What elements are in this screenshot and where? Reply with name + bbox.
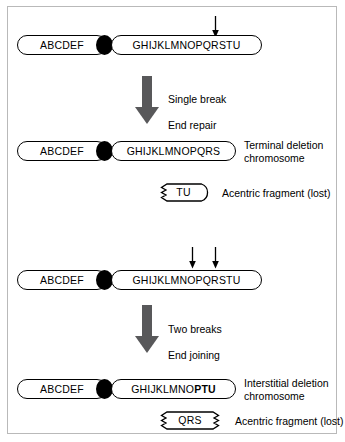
acentric-fragment-qrs-label: QRS (156, 411, 224, 430)
product-chromosome-interstitial: ABCDEF GHIJKLMNOPTU (17, 379, 236, 399)
process-arrow-two-breaks (134, 305, 160, 354)
process-label-line1: Two breaks (168, 323, 222, 336)
long-arm-label-bold: PTU (194, 383, 216, 395)
long-arm-label-composite: GHIJKLMNOPTU (131, 384, 216, 395)
long-arm: GHIJKLMNOPQRS (111, 141, 236, 161)
process-label-line2: End repair (168, 119, 226, 132)
short-arm-label: ABCDEF (40, 384, 84, 395)
process-label-line1: Single break (168, 93, 226, 106)
long-arm-label: GHIJKLMNOPQRSTU (132, 40, 240, 51)
short-arm: ABCDEF (17, 141, 107, 161)
product-chromosome-terminal: ABCDEF GHIJKLMNOPQRS (17, 141, 236, 161)
short-arm-label: ABCDEF (40, 275, 84, 286)
chromosome-deletion-figure: ABCDEF GHIJKLMNOPQRSTU Single break End … (0, 0, 345, 442)
acentric-fragment-tu-label: TU (156, 183, 211, 202)
long-arm-label: GHIJKLMNOPQRSTU (132, 275, 240, 286)
short-arm: ABCDEF (17, 270, 107, 290)
acentric-fragment-qrs: QRS (156, 411, 224, 430)
process-label-two-breaks: Two breaks End joining (168, 310, 222, 375)
short-arm-label: ABCDEF (40, 146, 84, 157)
short-arm: ABCDEF (17, 379, 107, 399)
process-label-line2: End joining (168, 349, 222, 362)
interstitial-deletion-side-label: Interstitial deletion chromosome (244, 377, 329, 403)
parent-chromosome-terminal: ABCDEF GHIJKLMNOPQRSTU (17, 35, 262, 55)
process-arrow-single-break (134, 76, 160, 125)
short-arm-label: ABCDEF (40, 40, 84, 51)
break-arrow-interstitial-right (210, 247, 221, 269)
long-arm-label: GHIJKLMNOPQRS (127, 146, 221, 157)
break-arrow-interstitial-left (187, 247, 198, 269)
long-arm: GHIJKLMNOPTU (111, 379, 236, 399)
long-arm-label-normal: GHIJKLMNO (131, 383, 194, 395)
acentric-fragment-tu: TU (156, 183, 211, 202)
terminal-deletion-side-label: Terminal deletion chromosome (244, 139, 323, 165)
parent-chromosome-interstitial: ABCDEF GHIJKLMNOPQRSTU (17, 270, 262, 290)
process-label-single-break: Single break End repair (168, 80, 226, 145)
long-arm: GHIJKLMNOPQRSTU (111, 270, 262, 290)
acentric-fragment-tu-caption: Acentric fragment (lost) (222, 187, 331, 200)
acentric-fragment-qrs-caption: Acentric fragment (lost) (235, 415, 344, 428)
long-arm: GHIJKLMNOPQRSTU (111, 35, 262, 55)
short-arm: ABCDEF (17, 35, 107, 55)
